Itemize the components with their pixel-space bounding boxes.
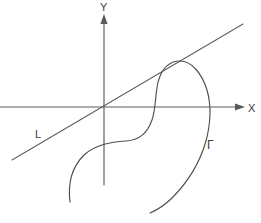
y-axis-arrowhead [100, 14, 107, 24]
y-axis-group [100, 14, 107, 185]
x-axis-group [0, 103, 245, 110]
figure-svg [0, 0, 261, 223]
x-axis-arrowhead [235, 103, 245, 110]
curve-gamma-label: Γ [207, 139, 214, 151]
y-axis-label: Y [100, 2, 107, 13]
figure-canvas: Y X L Γ [0, 0, 261, 223]
x-axis-label: X [248, 103, 255, 114]
curve-gamma [69, 61, 209, 213]
line-l-label: L [35, 129, 41, 140]
